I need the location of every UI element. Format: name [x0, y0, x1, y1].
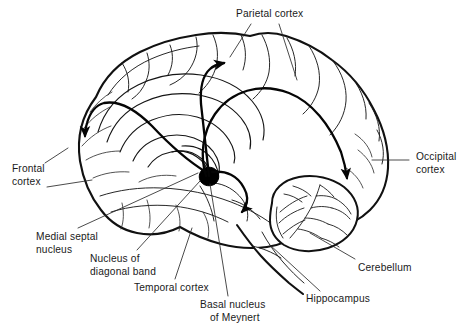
- label-temporal-cortex: Temporal cortex: [134, 282, 209, 293]
- brain-diagram-canvas: Parietal cortex Occipital cortex Frontal…: [0, 0, 472, 334]
- label-hippocampus: Hippocampus: [306, 293, 370, 304]
- label-basal-nucleus-of-meynert-line2: of Meynert: [210, 312, 260, 323]
- label-nucleus-of-diagonal-band: Nucleus of: [90, 253, 140, 264]
- label-occipital-cortex-line2: cortex: [416, 164, 445, 175]
- label-basal-nucleus-of-meynert: Basal nucleus: [200, 299, 265, 310]
- brain-diagram-figure: Parietal cortex Occipital cortex Frontal…: [0, 0, 472, 334]
- label-occipital-cortex: Occipital: [416, 151, 456, 162]
- label-medial-septal-nucleus-line2: nucleus: [36, 244, 72, 255]
- label-cerebellum: Cerebellum: [358, 262, 412, 273]
- leader-frontal-cortex-a: [45, 148, 68, 163]
- label-medial-septal-nucleus: Medial septal: [36, 231, 98, 242]
- label-parietal-cortex: Parietal cortex: [236, 8, 303, 19]
- cerebellum-group: [270, 176, 358, 251]
- label-frontal-cortex-line2: cortex: [12, 176, 41, 187]
- leader-temporal-cortex: [175, 228, 192, 279]
- label-frontal-cortex: Frontal: [12, 163, 45, 174]
- label-nucleus-of-diagonal-band-line2: diagonal band: [90, 266, 156, 277]
